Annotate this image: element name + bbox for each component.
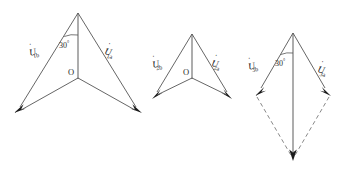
diagram-3-right-vector-line [293, 33, 325, 88]
diagram-1-right-short-line [78, 78, 135, 110]
svg-text:U̇′2a: U̇′2a [210, 54, 222, 72]
diagram-1-origin-label: O [68, 67, 74, 77]
diagram-3-left-vector-label: U̇′3b [246, 56, 259, 74]
diagram-1-angle-label: 30° [59, 40, 69, 50]
phasor-figure: 30° O U̇′1b U̇′1a [0, 0, 353, 173]
diagram-2-left-short-line [157, 78, 192, 95]
diagram-3-left-dashed-line [257, 97, 292, 157]
phasor-diagram-svg: 30° O U̇′1b U̇′1a [0, 0, 353, 173]
diagram-2-right-vector-label: U̇′2a [210, 54, 222, 72]
diagram-3-angle-arc [281, 53, 293, 55]
diagram-2-right-short-line [192, 78, 227, 95]
svg-text:U̇′2b: U̇′2b [151, 54, 163, 72]
diagram-3-angle-label: 30° [275, 58, 285, 68]
diagram-3-right-dashed-line [294, 97, 329, 157]
svg-text:U̇′3b: U̇′3b [246, 56, 259, 74]
diagram-2-origin-label: O [183, 67, 189, 77]
diagram-1-group: 30° O U̇′1b U̇′1a [14, 13, 142, 113]
diagram-2-right-arrowhead [222, 89, 232, 99]
diagram-2-left-vector-label: U̇′2b [151, 54, 163, 72]
diagram-1-left-vector-label: U̇′1b [27, 42, 40, 60]
diagram-2-group: O U̇′2b U̇′2a [151, 34, 232, 99]
diagram-3-left-arrowhead [255, 87, 266, 96]
diagram-3-right-arrowhead [320, 87, 331, 96]
diagram-1-right-vector-line [78, 13, 136, 107]
diagram-1-angle-arc [64, 35, 78, 37]
diagram-2-right-vector-line [192, 34, 227, 92]
diagram-1-left-vector-line [20, 13, 78, 107]
diagram-2-left-vector-line [157, 34, 192, 92]
svg-text:U̇′1b: U̇′1b [27, 42, 40, 60]
diagram-1-left-short-line [21, 78, 78, 110]
diagram-3-group: 30° U̇′3b U̇′3a [246, 33, 331, 161]
diagram-2-left-arrowhead [152, 89, 162, 99]
